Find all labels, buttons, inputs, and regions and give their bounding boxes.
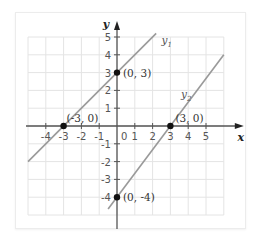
- y-axis-label: y: [102, 18, 111, 31]
- y-tick-label: -2: [101, 157, 111, 168]
- data-point: [114, 69, 120, 75]
- origin-label: 0: [121, 131, 127, 142]
- x-tick-label: 5: [203, 131, 209, 142]
- y-tick-label: -4: [101, 192, 111, 203]
- y-tick-label: -3: [101, 174, 111, 185]
- x-tick-label: 1: [132, 131, 138, 142]
- x-tick-label: -3: [59, 131, 69, 142]
- data-point: [114, 194, 120, 200]
- point-label: (0, 3): [123, 67, 151, 79]
- x-tick-label: 4: [185, 131, 191, 142]
- y-tick-label: 2: [105, 85, 111, 96]
- data-point: [167, 123, 173, 129]
- x-axis-arrow-icon: [235, 123, 244, 129]
- y-tick-label: -1: [101, 139, 111, 150]
- x-tick-label: 2: [149, 131, 155, 142]
- series-line-y1: [28, 33, 156, 161]
- x-tick-label: 3: [167, 131, 173, 142]
- coordinate-plane: xy-4-3-2-112345-4-3-2-1123450y1y2(0, 3)(…: [0, 0, 260, 240]
- point-label: (0, -4): [123, 191, 155, 203]
- y-tick-label: 4: [105, 50, 111, 61]
- series-label-y1: y1: [161, 34, 172, 49]
- point-label: (3, 0): [175, 112, 203, 124]
- x-tick-label: -2: [76, 131, 86, 142]
- y-axis-arrow-icon: [114, 21, 120, 30]
- point-label: (-3, 0): [67, 112, 99, 124]
- y-tick-label: 1: [105, 103, 111, 114]
- x-axis-label: x: [237, 131, 245, 144]
- y-tick-label: 5: [105, 32, 111, 43]
- y-tick-label: 3: [105, 68, 111, 79]
- series-label-y2: y2: [180, 88, 192, 103]
